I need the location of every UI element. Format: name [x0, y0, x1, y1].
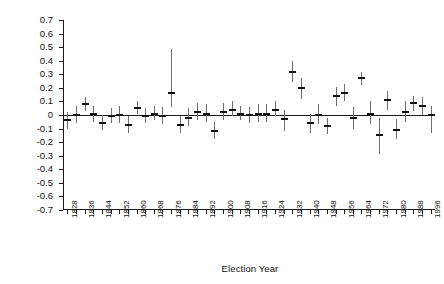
- x-tick: [85, 210, 86, 214]
- x-tick-label: 1932: [296, 200, 304, 218]
- data-point: [134, 107, 141, 109]
- y-tick-label: -0.6: [19, 190, 53, 201]
- x-tick-label: 1828: [71, 200, 79, 218]
- y-tick-label: 0.7: [19, 14, 53, 25]
- y-tick-label: -0.2: [19, 136, 53, 147]
- x-tick: [223, 210, 224, 214]
- x-tick-label: 1916: [261, 200, 269, 218]
- x-tick: [76, 210, 77, 214]
- data-point: [358, 77, 365, 79]
- data-point: [289, 71, 296, 73]
- x-tick-label: 1868: [157, 200, 165, 218]
- y-tick: 0.4: [59, 61, 63, 62]
- data-point: [64, 119, 71, 121]
- x-tick: [240, 210, 241, 214]
- data-point: [272, 109, 279, 111]
- x-tick: [206, 210, 207, 214]
- x-tick: [232, 210, 233, 214]
- y-tick: -0.6: [59, 196, 63, 197]
- y-tick: -0.7: [59, 210, 63, 211]
- data-point: [402, 111, 409, 113]
- data-point: [220, 111, 227, 113]
- x-tick: [249, 210, 250, 214]
- data-point: [419, 105, 426, 107]
- x-tick: [171, 210, 172, 214]
- x-tick: [214, 210, 215, 214]
- data-point: [237, 113, 244, 115]
- x-tick-label: 1908: [244, 200, 252, 218]
- y-tick: 0.1: [59, 101, 63, 102]
- x-tick: [197, 210, 198, 214]
- x-tick: [284, 210, 285, 214]
- x-tick: [353, 210, 354, 214]
- data-point: [82, 103, 89, 105]
- data-point: [384, 99, 391, 101]
- x-tick: [361, 210, 362, 214]
- y-tick: 0.3: [59, 74, 63, 75]
- data-point: [410, 102, 417, 104]
- x-tick-label: 1972: [382, 200, 390, 218]
- data-point: [151, 113, 158, 115]
- x-tick-label: 1900: [227, 200, 235, 218]
- x-tick-label: 1956: [348, 200, 356, 218]
- x-tick: [154, 210, 155, 214]
- x-tick-label: 1980: [400, 200, 408, 218]
- x-tick: [145, 210, 146, 214]
- x-tick: [275, 210, 276, 214]
- error-bar: [431, 106, 432, 133]
- x-tick: [431, 210, 432, 214]
- y-tick-label: 0.1: [19, 95, 53, 106]
- data-point: [246, 114, 253, 116]
- x-tick: [93, 210, 94, 214]
- x-tick: [336, 210, 337, 214]
- x-tick: [396, 210, 397, 214]
- x-tick: [258, 210, 259, 214]
- y-tick-label: 0.3: [19, 68, 53, 79]
- x-tick: [405, 210, 406, 214]
- data-point: [428, 114, 435, 116]
- x-tick: [301, 210, 302, 214]
- error-bar: [171, 49, 172, 107]
- data-point: [142, 115, 149, 117]
- y-tick: -0.3: [59, 156, 63, 157]
- data-point: [99, 122, 106, 124]
- data-point: [376, 134, 383, 136]
- data-point: [341, 92, 348, 94]
- data-point: [324, 125, 331, 127]
- x-tick-label: 1940: [313, 200, 321, 218]
- x-tick-label: 1996: [434, 200, 442, 218]
- x-tick-label: 1884: [192, 200, 200, 218]
- x-tick: [318, 210, 319, 214]
- x-tick: [344, 210, 345, 214]
- data-point: [185, 117, 192, 119]
- y-tick: -0.5: [59, 183, 63, 184]
- error-bar: [284, 110, 285, 132]
- y-tick-label: -0.3: [19, 150, 53, 161]
- plot-area: 0.70.60.50.40.30.20.10-0.1-0.2-0.3-0.4-0…: [63, 20, 435, 210]
- x-tick: [413, 210, 414, 214]
- data-point: [211, 130, 218, 132]
- data-point: [108, 115, 115, 117]
- x-tick-label: 1948: [330, 200, 338, 218]
- data-point: [333, 95, 340, 97]
- x-tick: [180, 210, 181, 214]
- data-point: [159, 115, 166, 117]
- y-tick-label: -0.5: [19, 177, 53, 188]
- y-tick: 0.5: [59, 47, 63, 48]
- data-point: [203, 113, 210, 115]
- data-point: [307, 122, 314, 124]
- y-tick-label: 0.4: [19, 55, 53, 66]
- data-point: [315, 114, 322, 116]
- x-tick: [128, 210, 129, 214]
- x-tick: [327, 210, 328, 214]
- y-tick: 0.6: [59, 34, 63, 35]
- y-tick-label: 0.6: [19, 28, 53, 39]
- y-tick-label: -0.1: [19, 123, 53, 134]
- y-tick: -0.1: [59, 129, 63, 130]
- y-tick: 0.2: [59, 88, 63, 89]
- x-tick: [422, 210, 423, 214]
- data-point: [194, 111, 201, 113]
- x-tick: [119, 210, 120, 214]
- chart-figure: Deviation from the Normal Vote 0.70.60.5…: [0, 0, 444, 284]
- data-point: [229, 109, 236, 111]
